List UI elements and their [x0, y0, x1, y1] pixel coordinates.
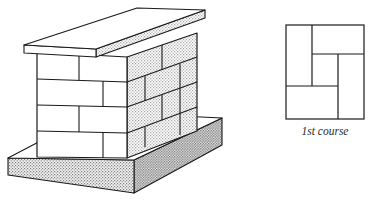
- footing-front-face: [8, 158, 134, 193]
- pier-front-face: [37, 52, 127, 158]
- plan-caption: 1st course: [302, 125, 349, 137]
- first-course-plan: 1st course: [286, 25, 364, 137]
- masonry-pier-figure: 1st course: [0, 0, 386, 208]
- figure-root: 1st course: [0, 0, 386, 208]
- plan-outer-square: [286, 25, 364, 119]
